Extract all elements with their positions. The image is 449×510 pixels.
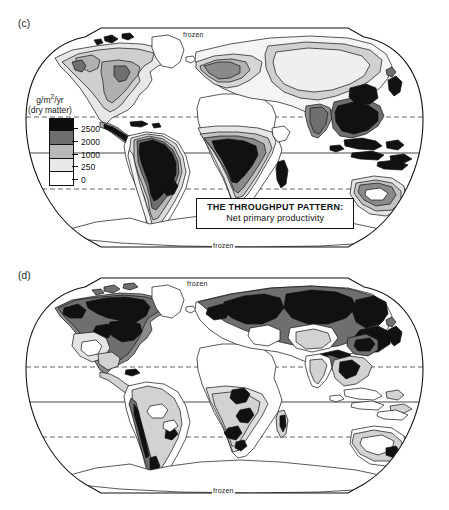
frozen-label-north-c: frozen (182, 31, 205, 38)
frozen-label-south-c: frozen (212, 242, 235, 249)
legend-c-swatch-250 (50, 159, 73, 172)
panel-c: (c) (0, 10, 449, 265)
caption-box-c: THE THROUGHPUT PATTERN: Net primary prod… (196, 198, 354, 229)
legend-c-tick-250: 250 (72, 162, 95, 172)
figure-page: THE BIOSPHERE (c) (0, 0, 449, 510)
legend-c-swatch-2000 (50, 131, 73, 145)
legend-c-unit-line2: (dry matter) (28, 105, 72, 115)
legend-c-tick-1000: 1000 (72, 150, 100, 160)
world-map-d (0, 262, 449, 510)
legend-c-tick-2500: 2500 (72, 124, 100, 134)
legend-c-tick-0: 0 (72, 175, 86, 185)
frozen-label-south-d: frozen (212, 487, 235, 494)
legend-c-swatch-1000 (50, 145, 73, 159)
caption-c-line1: THE THROUGHPUT PATTERN: (207, 202, 343, 213)
legend-c-tick-2000: 2000 (72, 137, 100, 147)
panel-d: (d) (0, 262, 449, 510)
legend-c-swatch-0 (50, 172, 73, 185)
legend-c-swatches (49, 118, 74, 186)
frozen-label-north-d: frozen (186, 280, 209, 287)
legend-c-unit-line1: g/m2/yr (28, 92, 72, 105)
map-d-svg (0, 262, 449, 510)
caption-c-line2: Net primary productivity (207, 213, 343, 224)
legend-c: g/m2/yr (dry matter) 2500 2000 1000 250 … (28, 92, 72, 182)
legend-c-swatch-2500 (50, 119, 73, 131)
